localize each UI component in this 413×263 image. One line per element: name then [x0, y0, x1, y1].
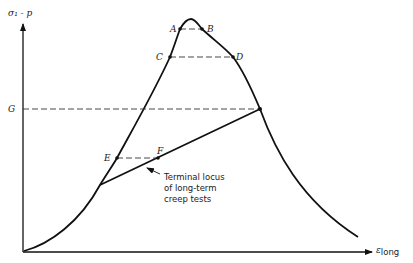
point-f-marker: [156, 156, 160, 160]
point-a-label: A: [169, 24, 177, 34]
point-g-intersection-marker: [258, 107, 262, 111]
point-b-label: B: [206, 24, 214, 34]
point-g-label: G: [8, 104, 15, 114]
point-e-marker: [115, 156, 119, 160]
x-axis-label: εlong: [376, 245, 399, 257]
point-d-label: D: [235, 52, 243, 62]
annotation-line-2: of long-term: [164, 183, 217, 193]
point-f-label: F: [156, 146, 164, 156]
point-b-marker: [200, 27, 204, 31]
stress-strain-diagram: σ₁ - p εlong A B C D E F G Terminal locu…: [0, 0, 413, 263]
annotation-leader-line: [147, 168, 160, 174]
y-axis-label: σ₁ - p: [8, 8, 33, 18]
annotation-line-3: creep tests: [164, 194, 212, 204]
point-a-marker: [178, 27, 182, 31]
point-e-label: E: [103, 153, 111, 163]
stress-strain-curve: [24, 19, 358, 251]
point-c-label: C: [156, 52, 163, 62]
point-c-marker: [168, 55, 172, 59]
point-d-marker: [231, 55, 235, 59]
annotation-line-1: Terminal locus: [163, 172, 225, 182]
